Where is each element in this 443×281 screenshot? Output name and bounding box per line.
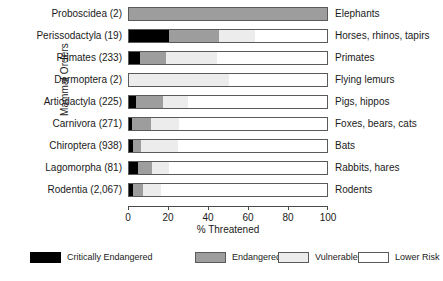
bar-segment-critically-endangered [129,52,140,64]
y-tick-label: Proboscidea (2) [0,7,122,21]
legend-swatch [30,252,61,263]
stacked-bar [128,73,328,87]
bar-row: Lagomorpha (81)Rabbits, hares [128,161,328,175]
x-tick-label: 100 [308,212,348,223]
x-tick-label: 0 [108,212,148,223]
legend-swatch [278,252,309,263]
bar-segment-vulnerable [152,162,169,174]
x-tick-label: 20 [148,212,188,223]
bar-row: Perissodactyla (19)Horses, rhinos, tapir… [128,29,328,43]
x-axis: 020406080100 [128,206,328,207]
legend-label: Vulnerable [315,252,358,263]
bar-segment-vulnerable [129,74,229,86]
bar-segment-vulnerable [219,30,255,42]
x-tick-label: 40 [188,212,228,223]
x-tick [168,206,169,210]
common-name-label: Rabbits, hares [335,161,399,175]
x-axis-title: % Threatened [128,224,328,235]
stacked-bar [128,29,328,43]
bar-segment-lower-risk [179,118,328,130]
common-name-label: Elephants [335,7,379,21]
bar-segment-vulnerable [166,52,217,64]
legend-swatch [358,252,389,263]
bar-row: Chiroptera (938)Bats [128,139,328,153]
stacked-bar [128,51,328,65]
bar-segment-lower-risk [178,140,328,152]
bar-row: Proboscidea (2)Elephants [128,7,328,21]
common-name-label: Foxes, bears, cats [335,117,417,131]
stacked-bar [128,139,328,153]
y-tick-label: Chiroptera (938) [0,139,122,153]
bar-segment-endangered [136,96,163,108]
bar-segment-endangered [138,162,152,174]
x-tick [327,206,328,210]
bar-segment-endangered [133,184,143,196]
bar-row: Carnivora (271)Foxes, bears, cats [128,117,328,131]
y-tick-label: Artiodactyla (225) [0,95,122,109]
stacked-bar [128,161,328,175]
legend-entry: Endangered [195,250,281,264]
mammal-orders-threat-chart: Mammal Orders Proboscidea (2)ElephantsPe… [0,0,443,281]
bar-row: Rodentia (2,067)Rodents [128,183,328,197]
y-tick-label: Lagomorpha (81) [0,161,122,175]
x-tick [248,206,249,210]
common-name-label: Horses, rhinos, tapirs [335,29,429,43]
stacked-bar [128,117,328,131]
bar-segment-endangered [140,52,166,64]
bar-segment-lower-risk [217,52,328,64]
bar-row: Dermoptera (2)Flying lemurs [128,73,328,87]
bar-segment-lower-risk [161,184,328,196]
stacked-bar [128,7,328,21]
bar-segment-vulnerable [141,140,178,152]
x-tick-label: 80 [268,212,308,223]
bar-segment-vulnerable [163,96,188,108]
common-name-label: Flying lemurs [335,73,394,87]
bar-segment-vulnerable [151,118,179,130]
common-name-label: Rodents [335,183,372,197]
bar-segment-critically-endangered [129,96,136,108]
bar-segment-endangered [132,118,151,130]
bar-segment-vulnerable [143,184,161,196]
legend-label: Lower Risk [395,252,440,263]
stacked-bar [128,95,328,109]
common-name-label: Pigs, hippos [335,95,389,109]
y-tick-label: Rodentia (2,067) [0,183,122,197]
bar-segment-critically-endangered [129,30,169,42]
x-tick [288,206,289,210]
bar-segment-endangered [129,8,328,20]
bar-segment-lower-risk [255,30,328,42]
bar-segment-endangered [169,30,219,42]
x-tick-label: 60 [228,212,268,223]
legend: Critically EndangeredEndangeredVulnerabl… [10,250,433,270]
legend-swatch [195,252,226,263]
legend-label: Endangered [232,252,281,263]
bar-segment-lower-risk [229,74,328,86]
bar-segment-endangered [133,140,141,152]
y-tick-label: Carnivora (271) [0,117,122,131]
legend-entry: Vulnerable [278,250,358,264]
bar-segment-lower-risk [169,162,328,174]
legend-label: Critically Endangered [67,252,153,263]
y-tick-label: Dermoptera (2) [0,73,122,87]
stacked-bar [128,183,328,197]
x-tick [128,206,129,210]
legend-entry: Lower Risk [358,250,440,264]
bar-segment-lower-risk [188,96,328,108]
common-name-label: Primates [335,51,374,65]
bar-row: Primates (233)Primates [128,51,328,65]
bar-row: Artiodactyla (225)Pigs, hippos [128,95,328,109]
y-tick-label: Perissodactyla (19) [0,29,122,43]
legend-entry: Critically Endangered [30,250,153,264]
x-tick [208,206,209,210]
common-name-label: Bats [335,139,355,153]
y-tick-label: Primates (233) [0,51,122,65]
bar-segment-critically-endangered [129,162,138,174]
